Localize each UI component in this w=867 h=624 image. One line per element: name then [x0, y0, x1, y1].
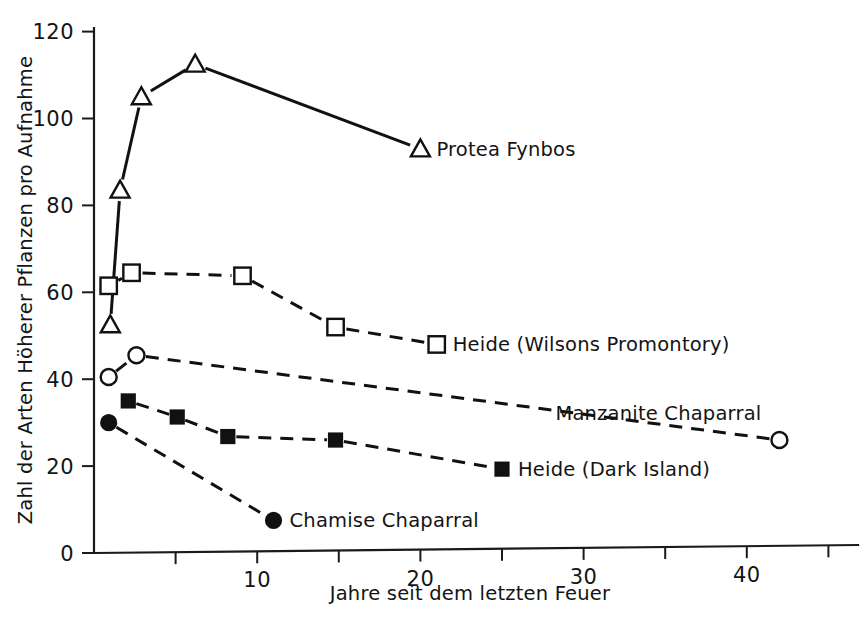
series-segment	[118, 278, 122, 280]
x-axis-line	[94, 545, 858, 553]
data-point-filled-square	[122, 394, 135, 407]
series-segment	[151, 70, 186, 91]
data-point-open-triangle	[132, 87, 151, 104]
y-axis-title: Zahl der Arten Höherer Pflanzen pro Aufn…	[14, 56, 37, 524]
x-axis-title: Jahre seit dem letzten Feuer	[328, 582, 611, 605]
data-point-filled-square	[329, 433, 342, 446]
series-segment	[116, 427, 265, 516]
series-label-heide-dark-island: Heide (Dark Island)	[518, 458, 710, 481]
data-point-open-square	[100, 278, 116, 294]
data-point-filled-square	[171, 410, 184, 423]
series-segment	[185, 420, 220, 433]
data-point-open-square	[327, 319, 343, 335]
data-point-filled-square	[495, 463, 508, 476]
series-labels-layer: Protea FynbosHeide (Wilsons Promontory)M…	[290, 138, 762, 532]
y-axis-tick-labels: 020406080100120	[32, 20, 74, 565]
x-tick-label: 40	[733, 563, 761, 587]
y-axis: 020406080100120	[32, 20, 94, 565]
series-segment	[344, 441, 494, 467]
series-segment	[346, 329, 426, 343]
series-segment	[252, 281, 326, 322]
data-series-layer	[100, 55, 787, 528]
series-label-heide-wilsons-promontory: Heide (Wilsons Promontory)	[453, 333, 730, 356]
series-chamise-chaparral	[101, 415, 281, 528]
series-segment	[146, 357, 770, 439]
series-manzanite-chaparral	[101, 347, 788, 448]
series-protea-fynbos	[101, 55, 430, 333]
series-segment	[116, 361, 129, 371]
data-point-open-circle	[771, 432, 787, 448]
data-point-open-triangle	[411, 139, 430, 156]
data-point-open-square	[429, 336, 445, 352]
series-label-chamise-chaparral: Chamise Chaparral	[290, 509, 479, 532]
series-segment	[123, 108, 139, 180]
series-label-manzanite-chaparral: Manzanite Chaparral	[555, 402, 761, 425]
y-tick-label: 80	[46, 194, 74, 218]
y-tick-label: 60	[46, 281, 74, 305]
y-tick-label: 100	[32, 107, 74, 131]
data-point-open-circle	[128, 347, 144, 363]
data-point-open-triangle	[186, 55, 205, 72]
series-segment	[143, 273, 232, 275]
y-tick-label: 40	[46, 368, 74, 392]
data-point-filled-circle	[266, 513, 281, 528]
x-tick-label: 10	[243, 568, 271, 592]
series-segment	[205, 68, 410, 145]
series-heide-wilsons-promontory	[100, 265, 444, 353]
data-point-open-square	[234, 268, 250, 284]
chart-figure: 020406080100120 10203040 Protea FynbosHe…	[0, 0, 867, 624]
y-tick-label: 0	[60, 542, 74, 566]
series-segment	[111, 201, 119, 314]
series-label-protea-fynbos: Protea Fynbos	[436, 138, 575, 161]
data-point-filled-circle	[101, 415, 116, 430]
y-tick-label: 20	[46, 455, 74, 479]
data-point-open-triangle	[111, 181, 130, 198]
data-point-open-square	[123, 265, 139, 281]
y-tick-label: 120	[32, 20, 74, 44]
series-segment	[236, 437, 327, 440]
data-point-filled-square	[221, 430, 234, 443]
data-point-open-circle	[101, 369, 117, 385]
data-point-open-triangle	[101, 315, 120, 332]
y-axis-ticks	[82, 32, 94, 553]
species-richness-line-chart: 020406080100120 10203040 Protea FynbosHe…	[0, 0, 867, 624]
series-segment	[136, 404, 169, 415]
